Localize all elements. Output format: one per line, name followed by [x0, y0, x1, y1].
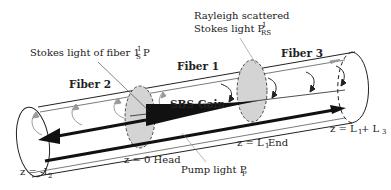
rayleigh-sup: 1 — [262, 21, 266, 29]
right-end-label: z = L — [330, 123, 357, 134]
end-suffix: End — [268, 137, 289, 148]
arrow-head-icon — [38, 128, 60, 144]
pump-pointer — [182, 133, 206, 162]
end-disk — [237, 60, 267, 122]
left-end-sub: 2 — [48, 172, 52, 180]
sbs-gain-label: SBS Gain — [170, 98, 225, 110]
stokes-sup: 1 — [137, 45, 141, 53]
right-end-sub3: 3 — [382, 128, 386, 136]
arrow-head-icon — [330, 105, 346, 114]
right-end-mid: + L — [361, 123, 380, 134]
pump-sub: P — [242, 170, 247, 178]
stokes-sub: S — [136, 53, 141, 61]
head-label: z = 0 Head — [124, 154, 181, 165]
right-end-face — [352, 52, 369, 123]
pump-label: Pump light P — [181, 164, 247, 175]
stokes-label: Stokes light of fiber 1 P — [30, 47, 150, 58]
fiber2-label: Fiber 2 — [69, 78, 111, 90]
rayleigh-sub: RS — [261, 29, 271, 37]
left-end-label: z = -L — [20, 166, 50, 177]
rayleigh-pointer — [240, 38, 256, 64]
end-label: z = L — [237, 137, 264, 148]
fiber3-label: Fiber 3 — [281, 47, 323, 59]
rayleigh-label-line2: Stokes light P — [194, 23, 265, 34]
gray-forward-arrow — [330, 60, 340, 64]
rayleigh-label-line1: Rayleigh scattered — [194, 10, 290, 21]
fiber1-label: Fiber 1 — [177, 60, 219, 72]
fiber-diagram: Fiber 1 Fiber 2 Fiber 3 SBS Gain Stokes … — [0, 0, 391, 190]
